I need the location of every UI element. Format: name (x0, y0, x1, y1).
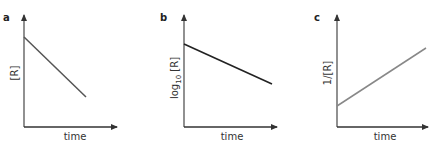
y-label-c: 1/[R] (322, 61, 333, 86)
panel-letter-c: c (314, 12, 320, 23)
data-line-a (24, 37, 86, 97)
x-label-a: time (64, 131, 87, 142)
panel-letter-b: b (160, 12, 167, 23)
y-label-b: log10 [R] (169, 57, 183, 99)
y-label-a: [R] (9, 66, 20, 81)
data-line-c (337, 48, 426, 106)
data-line-b (184, 44, 272, 84)
panel-a: a time [R] (3, 12, 117, 142)
panel-c: c time 1/[R] (314, 12, 428, 142)
x-label-b: time (221, 131, 244, 142)
panel-letter-a: a (3, 12, 10, 23)
y-label-b-main: log (169, 84, 180, 99)
kinetics-figure: a time [R] b time log10 [R] c time 1/[R] (0, 0, 432, 143)
y-label-b-rest: [R] (169, 57, 180, 75)
y-label-b-sub: 10 (175, 75, 183, 84)
x-label-c: time (374, 131, 397, 142)
panel-b: b time log10 [R] (160, 12, 277, 142)
